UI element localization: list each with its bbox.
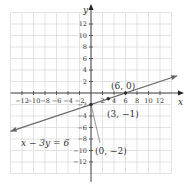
point-label-3-neg1: (3, −1)	[107, 109, 139, 119]
x-tick-label: 10	[144, 97, 152, 105]
data-point	[106, 97, 110, 101]
point-label-0-neg2: (0, −2)	[95, 146, 127, 156]
y-tick-label: 10	[79, 32, 87, 40]
x-axis-arrow-icon	[178, 91, 184, 96]
x-tick-label: 6	[123, 97, 127, 105]
x-axis-label: x	[178, 97, 183, 107]
x-tick-label: −4	[63, 97, 73, 105]
y-tick-label: 2	[83, 78, 87, 86]
data-point	[124, 91, 128, 95]
y-axis-label: y	[82, 5, 89, 15]
x-tick-label: 12	[156, 97, 164, 105]
y-tick-label: 4	[83, 66, 87, 74]
x-tick-label: 4	[112, 97, 116, 105]
y-tick-label: −8	[77, 135, 87, 143]
equation-label: x − 3y = 6	[21, 138, 69, 148]
y-axis-arrow-icon	[89, 4, 94, 10]
y-tick-label: −10	[73, 147, 87, 155]
x-tick-label: −8	[40, 97, 50, 105]
x-tick-label: 8	[135, 97, 139, 105]
point-label-6-0: (6, 0)	[111, 81, 135, 91]
y-tick-label: −4	[77, 112, 87, 120]
leader-line	[91, 105, 100, 144]
y-tick-label: 8	[83, 43, 87, 51]
x-tick-label: −10	[27, 97, 41, 105]
y-tick-label: 12	[79, 20, 87, 28]
coordinate-plane: −12−10−8−6−4−22468101212108642−2−4−6−8−1…	[0, 0, 184, 186]
x-tick-label: −6	[52, 97, 62, 105]
y-tick-label: −12	[73, 158, 87, 166]
y-tick-label: −6	[77, 124, 87, 132]
data-point	[89, 103, 93, 107]
y-tick-label: 6	[83, 55, 87, 63]
